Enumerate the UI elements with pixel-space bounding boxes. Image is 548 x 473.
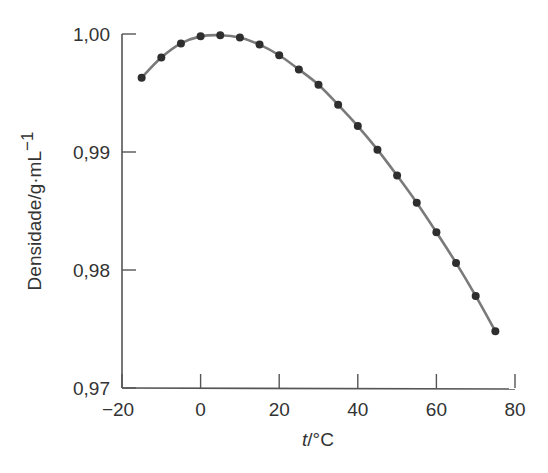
density-curve bbox=[142, 35, 496, 331]
x-tick-label: 0 bbox=[195, 399, 206, 420]
data-point bbox=[157, 54, 165, 62]
y-axis-title: Densidade/g·mL−1 bbox=[18, 132, 45, 291]
data-markers bbox=[138, 31, 500, 335]
data-point bbox=[295, 65, 303, 73]
data-point bbox=[216, 31, 224, 39]
y-axis-title-main: Densidade/g·mL bbox=[24, 151, 45, 290]
data-point bbox=[177, 39, 185, 47]
data-point bbox=[315, 81, 323, 89]
data-point bbox=[197, 32, 205, 40]
y-tick-label: 0,99 bbox=[73, 142, 110, 163]
x-axis-title: t/°C bbox=[302, 429, 334, 450]
data-point bbox=[334, 101, 342, 109]
x-tick-label: 60 bbox=[426, 399, 447, 420]
data-point bbox=[472, 292, 480, 300]
x-tick-label: 20 bbox=[269, 399, 290, 420]
data-point bbox=[256, 41, 264, 49]
y-tick-label: 0,97 bbox=[73, 378, 110, 399]
data-point bbox=[452, 259, 460, 267]
data-point bbox=[491, 327, 499, 335]
data-point bbox=[373, 146, 381, 154]
x-axis-line bbox=[122, 388, 515, 389]
y-axis-ticks: 0,970,980,991,00 bbox=[73, 24, 136, 399]
data-point bbox=[138, 74, 146, 82]
x-tick-label: 40 bbox=[347, 399, 368, 420]
data-point bbox=[393, 172, 401, 180]
x-tick-label: −20 bbox=[102, 399, 134, 420]
data-point bbox=[354, 122, 362, 130]
y-tick-label: 0,98 bbox=[73, 260, 110, 281]
data-point bbox=[275, 51, 283, 59]
x-axis-ticks: −20020406080 bbox=[102, 374, 526, 420]
density-line bbox=[142, 35, 496, 331]
data-point bbox=[432, 228, 440, 236]
density-chart: −20020406080 0,970,980,991,00 t/°C Densi… bbox=[0, 0, 548, 473]
y-axis-title-exponent: −1 bbox=[18, 132, 37, 151]
x-axis-title-unit: /°C bbox=[307, 429, 334, 450]
data-point bbox=[236, 34, 244, 42]
x-tick-label: 80 bbox=[504, 399, 525, 420]
data-point bbox=[413, 199, 421, 207]
y-tick-label: 1,00 bbox=[73, 24, 110, 45]
